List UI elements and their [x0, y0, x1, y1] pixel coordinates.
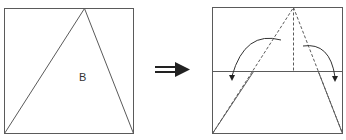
origami-fold-diagram [0, 0, 346, 140]
left-triangle-edge-1 [5, 9, 85, 134]
curved-arrow-left-icon [229, 38, 281, 81]
right-panel [213, 8, 343, 134]
right-triangle-lower-solid [318, 72, 342, 134]
left-panel [5, 9, 134, 134]
left-triangle-lower-solid [213, 72, 254, 134]
right-square [213, 8, 343, 134]
region-label-b: B [79, 71, 86, 83]
left-triangle-edge-2 [85, 9, 134, 134]
double-arrow-right-icon [155, 62, 190, 77]
left-square [5, 9, 134, 134]
